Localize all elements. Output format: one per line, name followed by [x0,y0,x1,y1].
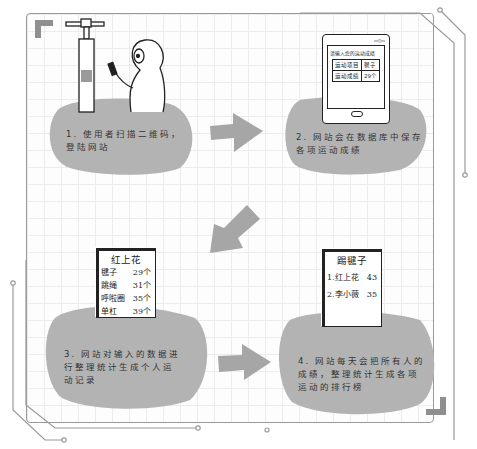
table-cell: 运动成绩 [333,71,362,82]
table-cell: 毽子 [362,60,380,71]
step-3-record-sheet: 红上花 毽子 29个 跳绳 31个 呼啦圈 35个 单杠 39个 [96,248,156,318]
tablet-screen: 请输入您的运动成绩 运动项目 毽子 运动成绩 29个 [327,45,385,109]
table-cell: 运动项目 [333,60,362,71]
leaderboard-name: 李小薇 [335,290,359,299]
record-item: 单杠 [101,305,117,318]
record-value: 39个 [133,305,151,318]
record-name: 红上花 [97,252,155,266]
record-row: 单杠 39个 [97,305,155,318]
leaderboard-name: 红上花 [335,273,359,282]
record-item: 毽子 [101,266,117,279]
leaderboard-entry: 1.红上花 [327,271,359,284]
leaderboard-entry: 2.李小薇 [327,288,359,301]
leaderboard-title: 踢毽子 [323,253,381,267]
caption-line: 1. 使用者扫描二维码， [66,128,182,141]
tablet-home-button-icon [351,111,363,117]
leaderboard-row: 1.红上花 43 [323,271,381,284]
caption-line: 行整理统计生成个人运 [64,361,180,374]
record-row: 呼啦圈 35个 [97,292,155,305]
leaderboard-value: 43 [367,271,377,284]
table-row: 运动项目 毽子 [333,60,380,71]
step-1-caption: 1. 使用者扫描二维码， 登陆网站 [66,128,182,154]
arrow-step2-to-step3 [210,205,260,253]
step-2-caption: 2. 网站会在数据库中保存 各项运动成绩 [296,131,423,157]
tablet-score-table: 运动项目 毽子 运动成绩 29个 [332,59,380,82]
step-1-illustration [66,19,165,112]
tablet-status-icons: ▭▯▭ [374,38,385,43]
caption-line: 3. 网站对输入的数据进 [64,348,180,361]
table-cell: 29个 [362,71,380,82]
record-value: 29个 [133,266,151,279]
record-item: 呼啦圈 [101,292,125,305]
caption-line: 各项运动成绩 [296,144,423,157]
caption-line: 4. 网站每天会把所有人的 [298,355,425,368]
caption-line: 动记录 [64,374,180,387]
caption-line: 运动的排行榜 [298,381,425,394]
caption-line: 成绩，整理统计生成各项 [298,368,425,381]
record-item: 跳绳 [101,279,117,292]
qr-code [81,70,92,82]
record-value: 31个 [133,279,151,292]
step-2-tablet: ▭▯▭ 请输入您的运动成绩 运动项目 毽子 运动成绩 29个 [322,34,390,124]
leaderboard-value: 35 [367,288,377,301]
arrow-step3-to-step4 [218,344,271,380]
step-3-caption: 3. 网站对输入的数据进 行整理统计生成个人运 动记录 [64,348,180,387]
record-row: 毽子 29个 [97,266,155,279]
caption-line: 登陆网站 [66,141,182,154]
leaderboard-row: 2.李小薇 35 [323,288,381,301]
leaderboard-rank: 1. [327,273,335,282]
corner-marker-bottom-right [426,397,446,415]
tablet-prompt: 请输入您的运动成绩 [330,49,382,56]
caption-line: 2. 网站会在数据库中保存 [296,131,423,144]
record-row: 跳绳 31个 [97,279,155,292]
step-4-caption: 4. 网站每天会把所有人的 成绩，整理统计生成各项 运动的排行榜 [298,355,425,394]
step-4-leaderboard-sheet: 踢毽子 1.红上花 43 2.李小薇 35 [322,249,382,327]
leaderboard-rank: 2. [327,290,335,299]
record-value: 35个 [133,292,151,305]
arrow-step1-to-step2 [210,113,263,152]
corner-marker-top-left [35,20,53,38]
table-row: 运动成绩 29个 [333,71,380,82]
